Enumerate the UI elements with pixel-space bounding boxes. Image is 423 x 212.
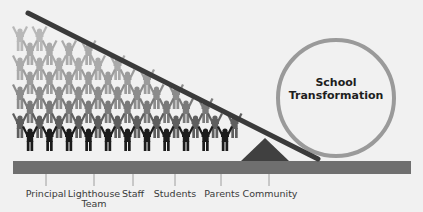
label-lighthouse-line2: Team: [68, 199, 120, 209]
label-lighthouse-team: Lighthouse Team: [68, 189, 120, 209]
person-icon: [217, 126, 233, 151]
person-icon: [139, 126, 155, 151]
crowd-figures: [12, 26, 243, 151]
label-community: Community: [243, 189, 298, 199]
label-principal: Principal: [26, 189, 66, 199]
lever-diagram: School Transformation Principal Lighthou…: [0, 0, 423, 212]
label-parents: Parents: [204, 189, 239, 199]
person-icon: [178, 126, 194, 151]
person-icon: [120, 126, 136, 151]
label-ticks: [46, 174, 269, 186]
person-icon: [61, 126, 77, 151]
ground-bar: [13, 161, 411, 174]
person-icon: [198, 126, 214, 151]
label-students: Students: [154, 189, 196, 199]
circle-title-line1: School: [281, 76, 391, 89]
person-icon: [22, 126, 38, 151]
person-icon: [81, 126, 97, 151]
diagram-graphics: [0, 0, 423, 212]
person-icon: [42, 126, 58, 151]
person-icon: [100, 126, 116, 151]
label-staff: Staff: [122, 189, 144, 199]
circle-title: School Transformation: [281, 76, 391, 102]
person-icon: [12, 113, 28, 138]
circle-title-line2: Transformation: [281, 89, 391, 102]
person-icon: [159, 126, 175, 151]
